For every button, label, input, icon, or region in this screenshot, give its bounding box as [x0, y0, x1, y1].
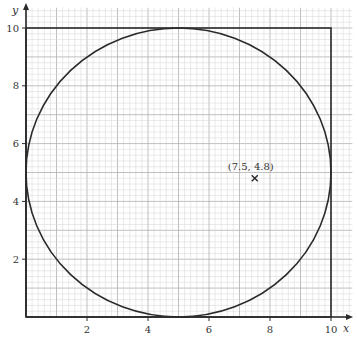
x-axis-label: x	[343, 322, 350, 335]
axes	[23, 3, 353, 320]
x-tick-label: 8	[267, 324, 273, 335]
y-axis-arrow	[23, 3, 29, 10]
y-tick-label: 10	[6, 23, 19, 34]
x-tick-label: 2	[84, 324, 90, 335]
x-tick-label: 10	[325, 324, 338, 335]
point-label: (7.5, 4.8)	[228, 161, 274, 172]
y-axis-label: y	[11, 4, 19, 17]
y-tick-label: 8	[13, 80, 19, 91]
y-tick-label: 6	[13, 138, 19, 149]
y-tick-label: 4	[13, 196, 19, 207]
x-tick-label: 6	[206, 324, 212, 335]
y-tick-label: 2	[13, 254, 19, 265]
grid	[26, 8, 352, 317]
chart: 246810246810 (7.5, 4.8) y x	[0, 0, 357, 344]
x-tick-label: 4	[145, 324, 151, 335]
